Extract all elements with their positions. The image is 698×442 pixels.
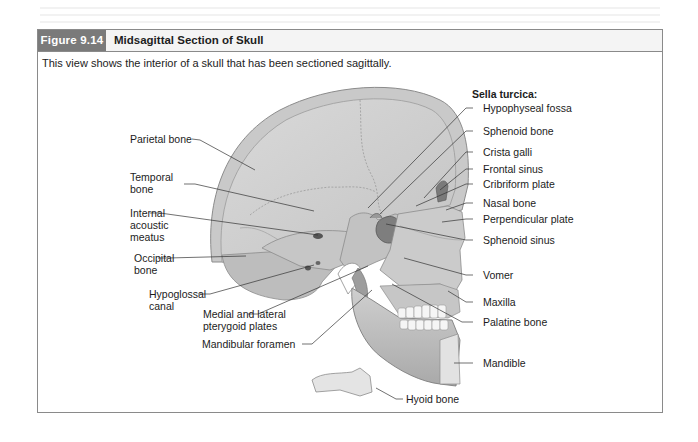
- label-sphenoid-bone: Sphenoid bone: [483, 125, 554, 137]
- label-hyoid-bone: Hyoid bone: [406, 393, 459, 405]
- label-parietal-bone: Parietal bone: [130, 133, 192, 145]
- hyoid: [312, 368, 372, 396]
- label-palatine-bone: Palatine bone: [483, 316, 547, 328]
- label-hypophyseal-fossa: Hypophyseal fossa: [483, 102, 572, 114]
- label-sphenoid-sinus: Sphenoid sinus: [483, 234, 555, 246]
- label-perpendicular-plate: Perpendicular plate: [483, 213, 573, 225]
- label-internal-acoustic-meatus: Internal acoustic meatus: [130, 207, 180, 243]
- label-pterygoid-plates: Medial and lateral pterygoid plates: [203, 308, 299, 332]
- label-nasal-bone: Nasal bone: [483, 197, 536, 209]
- label-temporal-bone: Temporal bone: [130, 171, 186, 195]
- label-occipital-bone: Occipital bone: [134, 252, 184, 276]
- label-maxilla: Maxilla: [483, 296, 516, 308]
- label-mandible: Mandible: [483, 357, 526, 369]
- skull-illustration: [0, 0, 698, 442]
- label-frontal-sinus: Frontal sinus: [483, 163, 543, 175]
- label-hypoglossal-canal: Hypoglossal canal: [149, 288, 209, 312]
- label-sella-turcica-heading: Sella turcica:: [472, 88, 537, 100]
- label-crista-galli: Crista galli: [483, 146, 532, 158]
- label-vomer: Vomer: [483, 269, 513, 281]
- label-cribriform-plate: Cribriform plate: [483, 178, 555, 190]
- teeth: [398, 305, 448, 330]
- label-mandibular-foramen: Mandibular foramen: [202, 338, 295, 350]
